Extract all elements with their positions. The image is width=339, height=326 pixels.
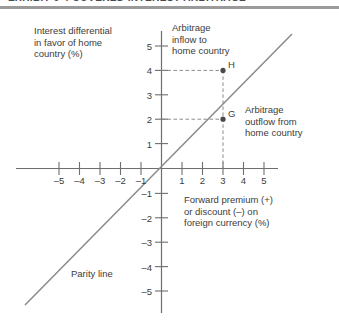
x-axis-title: Forward premium (+) or discount (–) on f… [184,194,273,229]
x-tick-label: –5 [54,175,65,186]
data-point-g [220,117,225,122]
data-point-h-label: H [228,59,235,70]
x-tick-label: 4 [241,175,246,186]
y-tick-label: –3 [132,237,152,248]
annotation-arbitrage-inflow: Arbitrage inflow to home country [172,22,230,57]
y-tick-label: 4 [138,65,152,76]
y-tick-label: –5 [132,286,152,297]
y-axis-title: Interest differential in favor of home c… [34,25,112,60]
y-tick-label: –2 [132,212,152,223]
data-point-h [220,68,225,73]
y-tick-label: 1 [138,138,152,149]
y-tick-label: –4 [132,261,152,272]
y-tick-label: –1 [132,188,152,199]
y-tick-label: 3 [138,89,152,100]
exhibit-figure: EXHIBIT 6-4 COVERED INTEREST ARBITRAGE [0,0,339,326]
y-tick-label: 5 [138,41,152,52]
x-tick-label: 3 [220,175,225,186]
x-tick-label: –3 [95,175,106,186]
chart-plot-area: Interest differential in favor of home c… [0,9,339,326]
x-tick-label: –4 [74,175,85,186]
exhibit-header-band: EXHIBIT 6-4 COVERED INTEREST ARBITRAGE [0,0,339,9]
x-tick-label: 2 [200,175,205,186]
parity-line [25,34,292,305]
x-tick-label: 1 [179,175,184,186]
y-tick-label: 2 [138,114,152,125]
data-point-g-label: G [228,108,235,119]
annotation-parity-line: Parity line [71,268,113,280]
annotation-arbitrage-outflow: Arbitrage outflow from home country [245,104,303,139]
exhibit-title-clipped: EXHIBIT 6-4 COVERED INTEREST ARBITRAGE [8,0,246,3]
x-tick-label: –1 [136,175,147,186]
x-tick-label: 5 [261,175,266,186]
x-tick-label: –2 [115,175,126,186]
